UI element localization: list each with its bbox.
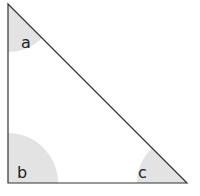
angle-b-arc [8,133,58,183]
triangle-diagram: a b c [0,0,200,196]
angle-b-label: b [17,163,27,182]
angle-a-label: a [21,33,31,52]
angle-c-label: c [138,163,147,182]
